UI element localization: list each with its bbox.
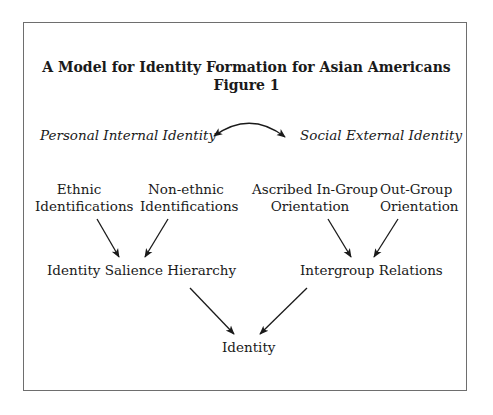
arrow-intergroup-to-identity bbox=[260, 288, 307, 334]
arrow-outgroup-to-intergroup bbox=[374, 219, 398, 257]
diagram-arrows bbox=[0, 0, 493, 415]
arrow-ethnic-to-salience bbox=[97, 219, 119, 257]
arrow-ascribed-to-intergroup bbox=[328, 219, 351, 257]
arrow-salience-to-identity bbox=[190, 288, 234, 334]
bidirectional-curved-arrow bbox=[214, 123, 285, 137]
arrow-nonethnic-to-salience bbox=[145, 219, 168, 257]
